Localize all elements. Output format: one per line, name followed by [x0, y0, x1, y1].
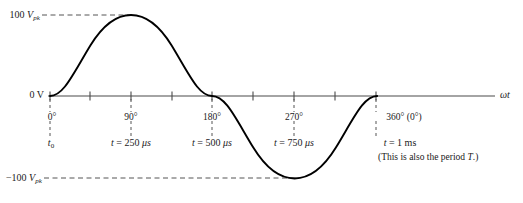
time-750us-value: = 750: [277, 137, 305, 148]
angle-label-360deg: 360° (0°): [386, 113, 421, 123]
period-note-suffix: .): [473, 152, 479, 162]
angle-label-90deg: 90°: [124, 113, 137, 123]
sine-wave-curve: [50, 15, 377, 179]
waveform-canvas: [0, 0, 523, 203]
y-peak-subscript: pk: [33, 14, 40, 22]
time-250us-value: = 250: [114, 137, 142, 148]
time-label-250us: t = 250 μs: [111, 138, 151, 148]
y-axis-label-negative-peak: −100 Vpk: [6, 173, 42, 185]
time-label-1ms: t = 1 ms: [384, 138, 417, 148]
time-500us-value: = 500: [195, 137, 223, 148]
period-note-prefix: (This is also the period: [378, 152, 467, 162]
time-t0-subscript: 0: [51, 142, 55, 150]
y-negpeak-value: −100: [6, 172, 29, 183]
period-note: (This is also the period T.): [378, 153, 478, 163]
time-label-750us: t = 750 μs: [274, 138, 314, 148]
y-axis-label-positive-peak: 100 Vpk: [10, 10, 40, 22]
sine-waveform-figure: 100 Vpk 0 V −100 Vpk ωt 0° 90° 180° 270°…: [0, 0, 523, 203]
time-label-500us: t = 500 μs: [192, 138, 232, 148]
y-negpeak-subscript: pk: [35, 177, 42, 185]
x-axis-label-omega-t: ωt: [500, 90, 510, 100]
time-label-t0: t0: [48, 138, 54, 150]
time-500us-unit: μs: [223, 137, 232, 148]
time-1ms-value: = 1 ms: [386, 137, 416, 148]
angle-label-180deg: 180°: [203, 113, 221, 123]
angle-label-0deg: 0°: [48, 113, 57, 123]
y-peak-value: 100: [10, 9, 28, 20]
time-750us-unit: μs: [305, 137, 314, 148]
angle-label-270deg: 270°: [285, 113, 303, 123]
y-axis-label-zero: 0 V: [29, 90, 44, 100]
time-250us-unit: μs: [142, 137, 151, 148]
